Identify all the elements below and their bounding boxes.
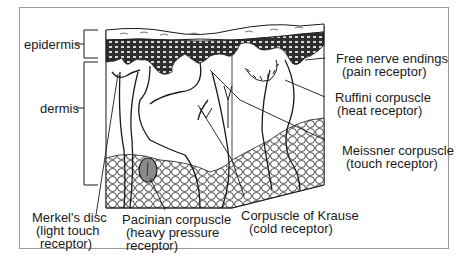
free-nerve-endings-function: (pain receptor)	[336, 65, 448, 78]
label-ruffini-corpuscle: Ruffini corpuscle (heat receptor)	[335, 91, 431, 117]
meissner-function: (touch receptor)	[342, 157, 454, 170]
label-dermis: dermis	[40, 102, 79, 115]
krause-branches	[200, 86, 232, 128]
pacinian-function-line2: receptor)	[122, 239, 231, 252]
label-corpuscle-of-krause: Corpuscle of Krause (cold receptor)	[241, 209, 359, 235]
label-meissner-corpuscle: Meissner corpuscle (touch receptor)	[342, 144, 454, 170]
label-epidermis: epidermis	[24, 38, 80, 51]
label-merkels-disc: Merkel's disc (light touch receptor)	[32, 211, 107, 250]
label-pacinian-corpuscle: Pacinian corpuscle (heavy pressure recep…	[122, 213, 231, 252]
pacinian-corpuscle-shape	[139, 158, 157, 182]
label-free-nerve-endings: Free nerve endings (pain receptor)	[336, 52, 448, 78]
dermis-bracket	[76, 62, 98, 185]
merkel-function-line2: receptor)	[32, 237, 107, 250]
ruffini-corpuscle-shape	[245, 60, 279, 81]
krause-function: (cold receptor)	[241, 222, 359, 235]
ruffini-function: (heat receptor)	[335, 104, 431, 117]
